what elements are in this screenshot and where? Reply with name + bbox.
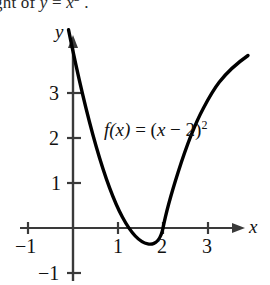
caption-strip: ght of y = x2 .	[0, 0, 270, 14]
y-tick-label--1: −1	[38, 263, 59, 283]
equation-minus: −	[165, 119, 185, 140]
y-tick-label-1: 1	[51, 173, 61, 193]
function-equation-label: f(x) = (x − 2)2	[104, 119, 207, 139]
y-tick-label-2: 2	[49, 128, 59, 148]
equation-exponent: 2	[201, 118, 207, 132]
equation-equals: =	[130, 119, 150, 140]
equation-fx: f(x)	[104, 119, 130, 140]
x-tick-label--1: −1	[15, 236, 36, 256]
parabola-figure: y x −1 1 2 3 3 2 1 −1 f(x) = (x − 2)2	[0, 14, 270, 285]
caption-prefix: ght of	[0, 0, 40, 12]
x-tick-label-2: 2	[157, 236, 167, 256]
caption-text: ght of y = x2 .	[0, 0, 89, 13]
caption-equals: =	[48, 0, 67, 12]
x-axis-arrowhead-icon	[232, 223, 245, 233]
x-tick-label-3: 3	[202, 236, 212, 256]
caption-var-y: y	[40, 0, 48, 12]
x-axis-label: x	[249, 217, 257, 236]
y-axis-label: y	[55, 22, 63, 41]
parabola-plot-svg	[0, 14, 270, 285]
equation-constant: 2	[186, 119, 196, 140]
caption-period: .	[80, 0, 89, 12]
caption-var-x: x	[66, 0, 74, 12]
y-tick-label-3: 3	[49, 83, 59, 103]
x-tick-label-1: 1	[113, 236, 123, 256]
